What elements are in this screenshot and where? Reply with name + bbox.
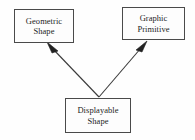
edge-line-displayable-to-graphic <box>99 48 141 97</box>
arrowhead-icon-geometric-shape <box>47 42 58 53</box>
diagram-canvas: Geometric Shape Graphic Primitive Displa… <box>0 0 195 140</box>
edge-displayable-to-geometric[interactable] <box>47 42 99 97</box>
node-displayable-shape[interactable]: Displayable Shape <box>65 98 131 133</box>
edge-displayable-to-graphic[interactable] <box>99 41 147 97</box>
node-label-displayable-shape: Displayable Shape <box>75 105 120 126</box>
arrowhead-icon-graphic-primitive <box>136 41 147 52</box>
edge-line-displayable-to-geometric <box>53 49 99 97</box>
node-label-graphic-primitive: Graphic Primitive <box>135 13 171 34</box>
node-graphic-primitive[interactable]: Graphic Primitive <box>122 7 185 40</box>
node-label-geometric-shape: Geometric Shape <box>24 16 64 37</box>
node-geometric-shape[interactable]: Geometric Shape <box>14 9 74 43</box>
